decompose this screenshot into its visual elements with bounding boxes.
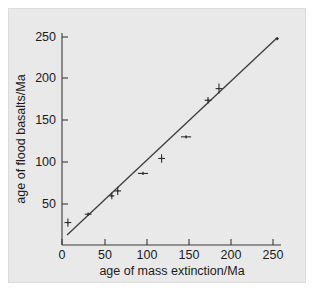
- y-axis-title: age of flood basalts/Ma: [14, 74, 28, 203]
- data-point: [138, 172, 148, 175]
- data-point-marker: [185, 136, 187, 138]
- data-point: [216, 84, 223, 94]
- y-tick-label-50: 50: [42, 197, 56, 211]
- data-point: [114, 187, 121, 195]
- y-axis-ticks: [62, 37, 68, 204]
- data-points-layer: [65, 37, 279, 227]
- screenshot-root: 250 200 150 100 50 0 50 100 150 200 250 …: [0, 0, 314, 291]
- x-tick-label-0: 0: [59, 248, 66, 262]
- data-point-marker: [117, 190, 119, 192]
- data-point: [109, 193, 114, 200]
- data-point-marker: [161, 158, 163, 160]
- fit-line: [67, 38, 277, 235]
- data-point-marker: [111, 195, 113, 197]
- data-point-marker: [142, 173, 144, 175]
- x-axis-title: age of mass extinction/Ma: [99, 264, 244, 278]
- data-point-marker: [276, 38, 278, 40]
- data-point-marker: [87, 213, 89, 215]
- data-point: [205, 97, 212, 104]
- data-point-marker: [207, 99, 209, 101]
- data-point-marker: [218, 88, 220, 90]
- y-tick-label-150: 150: [35, 113, 56, 127]
- x-axis-ticks: [62, 239, 273, 245]
- data-point: [181, 135, 191, 138]
- data-point-marker: [67, 222, 69, 224]
- scatter-chart: 250 200 150 100 50 0 50 100 150 200 250 …: [0, 0, 314, 291]
- y-tick-label-250: 250: [35, 30, 56, 44]
- y-tick-label-200: 200: [35, 71, 56, 85]
- x-tick-label-150: 150: [179, 248, 200, 262]
- data-point: [65, 218, 72, 226]
- x-tick-label-250: 250: [263, 248, 284, 262]
- x-tick-label-200: 200: [221, 248, 242, 262]
- x-tick-label-50: 50: [98, 248, 112, 262]
- data-point: [158, 154, 165, 162]
- x-tick-label-100: 100: [137, 248, 158, 262]
- y-tick-label-100: 100: [35, 155, 56, 169]
